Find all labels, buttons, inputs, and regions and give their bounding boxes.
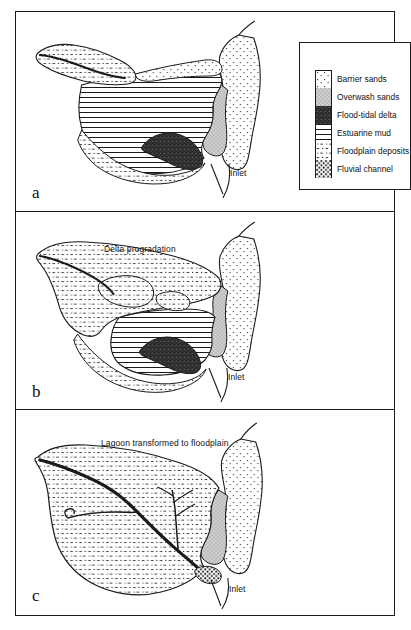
legend-label-barrier-sands: Barrier sands	[337, 75, 387, 83]
panel-label-b: b	[32, 383, 41, 400]
inlet-channel-b2	[221, 368, 228, 402]
annotation-lagoon-transformed-c: Lagoon transformed to floodplain	[101, 438, 228, 448]
legend-swatch-floodplain-deposits	[315, 142, 332, 160]
legend-swatch-fluvial-channel	[315, 160, 332, 178]
barrier-tail-c	[241, 423, 257, 439]
inlet-channel-b-a	[223, 164, 230, 198]
legend-item-flood-tidal-delta: Flood-tidal delta	[315, 106, 409, 124]
barrier-tail-a	[239, 21, 255, 35]
legend-item-floodplain-deposits: Floodplain deposits	[315, 142, 409, 160]
panel-label-c: c	[32, 587, 40, 604]
panel-b: Delta progradation Inlet b	[16, 211, 394, 410]
legend-item-overwash-sands: Overwash sands	[315, 88, 409, 106]
inlet-channel-b1	[209, 368, 221, 398]
legend-label-floodplain-deposits: Floodplain deposits	[337, 147, 409, 155]
fluvial-channel-mouth-c	[195, 566, 222, 583]
inlet-channel-c2	[222, 578, 229, 609]
legend-swatch-estuarine-mud	[315, 124, 332, 142]
legend-list: Barrier sands Overwash sands Flood-tidal…	[315, 70, 409, 178]
annotation-inlet-c: Inlet	[229, 584, 246, 594]
legend-swatch-flood-tidal-delta	[315, 106, 332, 124]
legend-label-overwash-sands: Overwash sands	[337, 93, 399, 101]
barrier-sands-body-c	[221, 439, 262, 574]
annotation-inlet-a: Inlet	[230, 168, 247, 178]
legend-item-barrier-sands: Barrier sands	[315, 70, 409, 88]
figure-frame: Inlet a Delta progradatio	[15, 11, 395, 616]
legend-label-fluvial-channel: Fluvial channel	[337, 165, 393, 173]
legend-box: Barrier sands Overwash sands Flood-tidal…	[299, 42, 411, 190]
legend-item-fluvial-channel: Fluvial channel	[315, 160, 409, 178]
panel-label-a: a	[32, 184, 40, 201]
annotation-delta-progradation-b: Delta progradation	[104, 244, 176, 254]
annotation-inlet-b: Inlet	[228, 372, 245, 382]
panel-b-map	[16, 212, 394, 410]
legend-swatch-barrier-sands	[315, 70, 332, 88]
barrier-tail-b	[239, 222, 255, 236]
legend-label-estuarine-mud: Estuarine mud	[337, 129, 391, 137]
inlet-channel-c1	[211, 580, 221, 606]
legend-swatch-overwash-sands	[315, 88, 332, 106]
legend-item-estuarine-mud: Estuarine mud	[315, 124, 409, 142]
floodplain-spit-a	[36, 44, 136, 84]
inlet-channel-a	[211, 164, 223, 194]
panel-c: Lagoon transformed to floodplain Inlet c	[16, 409, 394, 616]
legend-label-flood-tidal-delta: Flood-tidal delta	[337, 111, 397, 119]
